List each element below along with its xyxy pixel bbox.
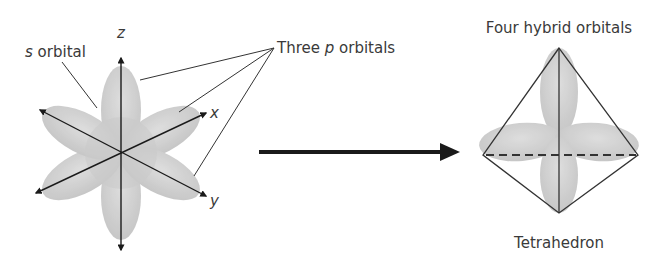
transformation-arrow — [259, 143, 460, 161]
p-orbital-pointer-3 — [194, 48, 274, 176]
y-axis-label: y — [209, 192, 220, 210]
tetrahedron-caption: Tetrahedron — [513, 234, 604, 252]
atomic-orbitals-figure: s orbital Three p orbitals z x y — [25, 24, 395, 250]
x-axis-label: x — [209, 104, 219, 122]
hybrid-orbitals-title: Four hybrid orbitals — [486, 19, 633, 37]
s-orbital-label: s orbital — [25, 43, 86, 61]
hybrid-orbitals-figure: Four hybrid orbitals Tetrahedron — [478, 19, 641, 252]
p-orbital-pointer-1 — [140, 48, 274, 80]
axes — [36, 58, 206, 250]
p-orbital-pointer-2 — [179, 48, 274, 112]
s-orbital-pointer — [62, 62, 97, 108]
p-orbitals-label: Three p orbitals — [276, 39, 395, 57]
z-axis-label: z — [116, 24, 126, 42]
sp3-hybridization-diagram: s orbital Three p orbitals z x y Four hy… — [0, 0, 665, 262]
